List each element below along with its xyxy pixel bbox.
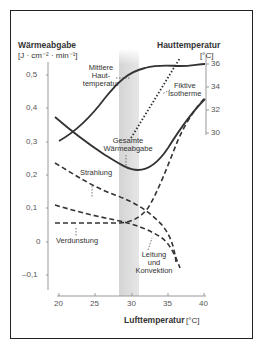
- annotation-verdunstung: Verdunstung: [56, 236, 98, 245]
- annotation-leitung-konvektion: Leitung und Konvektion: [134, 251, 174, 275]
- annotation-mittlere-hauttemperatur: Mittlere Haut- temperatur: [80, 64, 122, 88]
- y2-tick: 36: [211, 59, 220, 68]
- y-tick: 0,5: [26, 70, 37, 79]
- annotation-gesamte-waermeabgabe: Gesamte Wärmeabgabe: [100, 137, 156, 153]
- y2-axis-title: Hauttemperatur: [157, 41, 220, 50]
- y2-tick: 30: [211, 128, 220, 137]
- x-tick: 40: [199, 299, 208, 308]
- y-axis-unit: [J · cm⁻² · min⁻¹]: [18, 51, 78, 60]
- y2-tick: 34: [211, 82, 220, 91]
- y-axis-title: Wärmeabgabe: [18, 41, 76, 50]
- x-tick: 30: [127, 299, 136, 308]
- x-axis-title: Lufttemperatur: [124, 316, 184, 325]
- y-tick: 0,3: [26, 137, 37, 146]
- y-tick: 0,1: [26, 203, 37, 212]
- y-tick: 0: [36, 237, 40, 246]
- series-strahlung: [55, 163, 176, 262]
- annotation-strahlung: Strahlung: [80, 168, 112, 177]
- x-tick: 35: [163, 299, 172, 308]
- y-tick: 0,4: [26, 103, 37, 112]
- x-tick: 25: [90, 299, 99, 308]
- y-tick: –0,1: [22, 270, 38, 279]
- y2-tick: 32: [211, 105, 220, 114]
- y-tick: 0,2: [26, 170, 37, 179]
- annotation-fiktive-isotherme: Fiktive Isotherme: [168, 82, 201, 98]
- x-tick: 20: [54, 299, 63, 308]
- x-axis-unit: [°C]: [186, 316, 199, 325]
